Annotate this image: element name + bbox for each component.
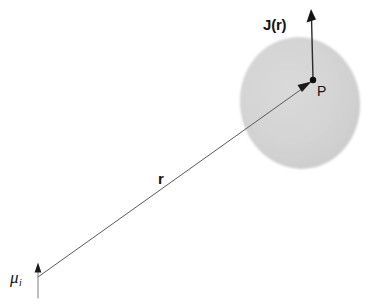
magnetic-moment-symbol: μ: [10, 268, 19, 287]
magnetic-moment-arrowhead: [35, 263, 42, 273]
region-ellipse-shape: [231, 29, 368, 176]
diagram-canvas: [0, 0, 375, 306]
field-point-label: P: [317, 84, 326, 98]
field-point-marker: [310, 77, 316, 83]
position-vector-shaft: [38, 86, 306, 277]
magnetic-moment-subscript: i: [19, 277, 22, 288]
magnetic-moment-arrow: [35, 263, 42, 299]
current-density-vector-arrowhead: [307, 9, 317, 23]
physics-diagram-figure: J(r) r P μi: [0, 0, 375, 306]
magnetic-moment-label: μi: [10, 269, 22, 288]
current-density-label: J(r): [263, 17, 286, 32]
position-vector-r: [38, 82, 312, 278]
current-density-region: [231, 29, 368, 176]
position-vector-label: r: [158, 171, 164, 186]
